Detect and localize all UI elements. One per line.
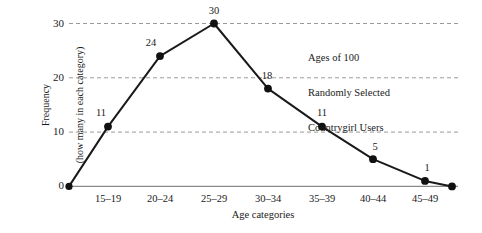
data-label-25-29: 30 — [199, 5, 229, 17]
frequency-polygon-chart: 30 20 10 0 Frequency (how many in each c… — [0, 0, 482, 233]
y-axis-title: Frequency (how many in each category) — [18, 20, 108, 190]
x-tick-label-30-34: 30–34 — [238, 193, 298, 205]
data-label-20-24: 24 — [136, 37, 166, 49]
marker-25-29 — [210, 20, 218, 28]
marker-20-24 — [156, 52, 164, 60]
data-label-15-19: 11 — [86, 107, 116, 119]
data-label-30-34: 18 — [252, 70, 282, 82]
chart-annotation: Ages of 100 Randomly Selected Countrygir… — [308, 28, 390, 157]
y-axis-title-line1: Frequency — [40, 20, 51, 190]
marker-30-34 — [264, 85, 272, 93]
y-axis-title-line2: (how many in each category) — [74, 20, 85, 190]
x-tick-label-45-49: 45–49 — [395, 193, 455, 205]
x-tick-label-40-44: 40–44 — [343, 193, 403, 205]
annotation-line-3: Countrygirl Users — [308, 122, 390, 134]
marker-end-zero — [448, 183, 456, 191]
annotation-line-2: Randomly Selected — [308, 87, 390, 99]
x-tick-label-20-24: 20–24 — [130, 193, 190, 205]
marker-45-49 — [421, 177, 429, 185]
x-tick-label-25-29: 25–29 — [184, 193, 244, 205]
x-tick-label-15-19: 15–19 — [78, 193, 138, 205]
annotation-line-1: Ages of 100 — [308, 52, 390, 64]
x-axis-title: Age categories — [183, 209, 343, 221]
data-line — [69, 24, 452, 187]
data-label-45-49: 1 — [412, 162, 442, 174]
